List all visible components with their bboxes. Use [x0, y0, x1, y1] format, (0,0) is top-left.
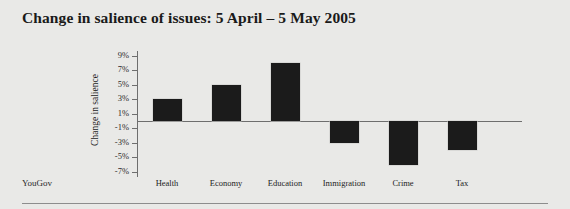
x-axis-label: Crime [374, 178, 433, 188]
bar [389, 121, 418, 165]
y-axis-tick: 1% [132, 114, 137, 115]
x-axis-label: Tax [433, 178, 492, 188]
x-axis-label: Health [138, 178, 197, 188]
y-axis-title-text: Change in salience [90, 74, 100, 146]
bar [448, 121, 477, 150]
x-axis-label: Immigration [315, 178, 374, 188]
y-axis-tick: -3% [132, 143, 137, 144]
bar [271, 63, 300, 121]
chart-title: Change in salience of issues: 5 April – … [22, 9, 356, 27]
y-axis-tick: 3% [132, 99, 137, 100]
bar [330, 121, 359, 143]
source-attribution: YouGov [22, 178, 52, 188]
y-axis-tick: -5% [132, 157, 137, 158]
y-axis-spine [137, 51, 138, 177]
y-axis-tick: 5% [132, 85, 137, 86]
y-axis-tick: 9% [132, 56, 137, 57]
chart-figure: Change in salience of issues: 5 April – … [0, 0, 570, 209]
footer-divider [22, 203, 548, 204]
y-axis-tick: -7% [132, 172, 137, 173]
x-axis-label: Economy [197, 178, 256, 188]
y-axis-tick-label: 3% [118, 93, 129, 103]
y-axis-tick-label: 1% [118, 108, 129, 118]
y-axis-tick-label: 7% [118, 64, 129, 74]
y-axis-tick-label: 5% [118, 79, 129, 89]
y-axis-tick-label: -3% [115, 137, 129, 147]
plot-area: 9%7%5%3%1%-1%-3%-5%-7% HealthEconomyEduc… [137, 46, 522, 177]
y-axis-tick: 7% [132, 70, 137, 71]
x-axis-label: Education [256, 178, 315, 188]
y-axis-tick: -1% [132, 128, 137, 129]
y-axis-tick-label: -1% [115, 122, 129, 132]
y-axis-tick-label: 9% [118, 50, 129, 60]
bar [153, 99, 182, 121]
y-axis-title: Change in salience [88, 52, 102, 168]
y-axis-tick-label: -5% [115, 151, 129, 161]
y-axis-tick-label: -7% [115, 166, 129, 176]
bar [212, 85, 241, 121]
